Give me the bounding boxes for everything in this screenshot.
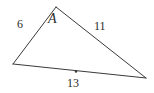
side-label-right: 11: [94, 20, 106, 32]
side-label-base: 13: [67, 77, 79, 89]
triangle-edge-right: [56, 7, 146, 78]
vertex-label-a: A: [48, 12, 57, 26]
triangle-edge-base: [13, 64, 146, 78]
side-label-left: 6: [17, 18, 23, 30]
triangle-figure: 6 11 13 A: [0, 0, 154, 93]
base-midpoint-dot: [75, 70, 77, 72]
